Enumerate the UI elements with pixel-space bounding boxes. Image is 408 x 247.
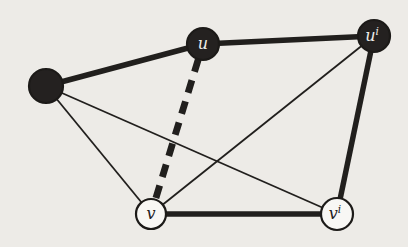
node-ui: ui	[358, 20, 390, 52]
node-label-sup-ui: i	[375, 25, 378, 37]
node-label-v: v	[146, 204, 155, 223]
node-vi: vi	[321, 198, 353, 230]
node-label-u: u	[198, 34, 208, 53]
edge-ui-vi-thick	[337, 36, 374, 214]
edge-w-u-thick	[46, 44, 203, 86]
edge-w-vi-thin	[46, 86, 337, 214]
edge-u-ui-thick	[203, 36, 374, 44]
edges-layer	[46, 36, 374, 214]
node-u: u	[187, 28, 219, 60]
figure-page: uuivvi	[0, 0, 408, 247]
edge-w-v-thin	[46, 86, 151, 214]
node-w	[29, 69, 63, 103]
nodes-layer: uuivvi	[29, 20, 390, 230]
node-v: v	[136, 199, 166, 229]
edge-u-v-dashed	[151, 44, 203, 214]
node-label-sup-vi: i	[338, 203, 341, 215]
node-circle-w	[29, 69, 63, 103]
graph-canvas: uuivvi	[0, 0, 408, 247]
